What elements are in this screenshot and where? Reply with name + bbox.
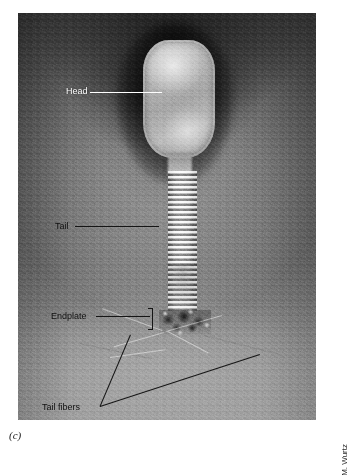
leader-line-endplate (96, 316, 150, 317)
annotation-label-head: Head (66, 87, 88, 96)
leader-line-tail (75, 226, 159, 227)
leader-line-tail-fibers-left (100, 335, 131, 407)
annotation-label-tail: Tail (55, 222, 69, 231)
photographer-credit: M. Wurtz (340, 444, 349, 476)
annotation-label-endplate: Endplate (51, 312, 87, 321)
panel-letter: (c) (9, 429, 21, 441)
endplate-bracket (148, 308, 153, 330)
leader-line-tail-fibers-right (100, 354, 260, 407)
annotation-overlay: Head Tail Endplate Tail fibers (18, 13, 316, 420)
transmission-electron-micrograph: Head Tail Endplate Tail fibers (18, 13, 316, 420)
leader-line-head (90, 92, 162, 93)
annotation-label-tail-fibers: Tail fibers (42, 403, 80, 412)
